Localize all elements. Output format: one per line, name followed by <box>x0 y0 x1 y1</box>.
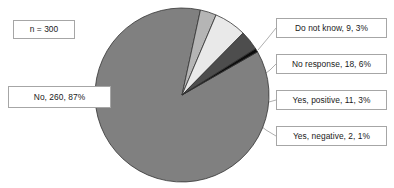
pie-label-do-not-know[interactable]: Do not know, 9, 3% <box>276 18 387 38</box>
pie-label-no[interactable]: No, 260, 87% <box>8 86 111 108</box>
pie-label-yes-positive[interactable]: Yes, positive, 11, 3% <box>276 90 387 110</box>
pie-label-yes-negative[interactable]: Yes, negative, 2, 1% <box>276 126 387 146</box>
pie-chart-figure: n = 300 No, 260, 87% Do not know, 9, 3% … <box>0 0 394 188</box>
pie-label-no-response[interactable]: No response, 18, 6% <box>276 54 387 74</box>
leader-line-do-not-know <box>258 28 276 50</box>
pie-slices <box>95 8 269 182</box>
sample-size-annotation: n = 300 <box>13 20 75 39</box>
